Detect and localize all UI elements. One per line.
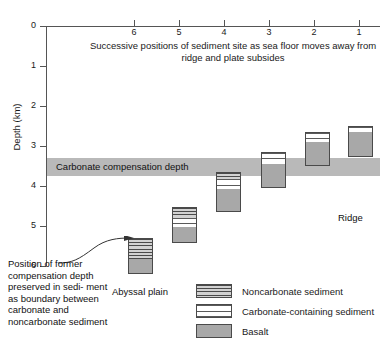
y-tick-label-1: 1 [22,61,36,70]
legend-label-basalt: Basalt [242,326,268,337]
y-tick-label-3: 3 [22,141,36,150]
layer-noncarbonate-5 [173,208,196,218]
y-tick-5 [40,226,46,227]
x-tick-5 [179,20,180,26]
diagram-canvas: Depth (km) 0 1 2 3 4 5 6 6 5 4 3 2 1 Suc… [0,0,388,355]
x-tick-label-2: 2 [306,28,322,37]
y-tick-1 [40,66,46,67]
legend-swatch-noncarbonate [196,284,232,298]
former-compensation-depth-annotation: Position of former compensation depth pr… [8,258,112,327]
x-tick-3 [269,20,270,26]
y-tick-2 [40,106,46,107]
legend-label-noncarbonate: Noncarbonate sediment [242,286,343,297]
y-tick-label-4: 4 [22,181,36,190]
x-tick-label-4: 4 [216,28,232,37]
sediment-column-1 [348,126,373,157]
layer-carbonate-3 [262,153,285,164]
x-tick-label-3: 3 [261,28,277,37]
layer-basalt-2 [306,142,329,165]
sediment-column-5 [172,207,197,243]
x-tick-label-5: 5 [171,28,187,37]
layer-carbonate-5 [173,218,196,227]
layer-carbonate-4 [217,179,240,189]
abyssal-plain-label: Abyssal plain [112,286,168,297]
y-tick-4 [40,186,46,187]
layer-basalt-4 [217,189,240,211]
ccd-band-label: Carbonate compensation depth [56,162,189,172]
y-axis-title: Depth (km) [12,92,22,162]
legend-label-carbonate: Carbonate-containing sediment [242,306,374,317]
y-tick-label-0: 0 [22,21,36,30]
y-tick-label-2: 2 [22,101,36,110]
x-tick-label-1: 1 [351,28,367,37]
y-tick-3 [40,146,46,147]
sediment-column-2 [305,132,330,166]
layer-basalt-3 [262,164,285,187]
legend-swatch-basalt [196,324,232,338]
sediment-column-3 [261,152,286,188]
layer-basalt-1 [349,132,372,156]
y-tick-label-5: 5 [22,221,36,230]
x-tick-4 [224,20,225,26]
x-tick-2 [314,20,315,26]
top-caption: Successive positions of sediment site as… [88,40,378,63]
x-axis-line [46,26,380,27]
sediment-column-4 [216,172,241,212]
x-tick-1 [359,20,360,26]
ridge-label: Ridge [338,212,363,223]
x-tick-label-6: 6 [126,28,142,37]
y-tick-0 [40,26,46,27]
y-axis-line [46,26,47,266]
x-tick-6 [134,20,135,26]
legend-swatch-carbonate [196,304,232,318]
layer-carbonate-2 [306,133,329,142]
layer-basalt-5 [173,227,196,242]
